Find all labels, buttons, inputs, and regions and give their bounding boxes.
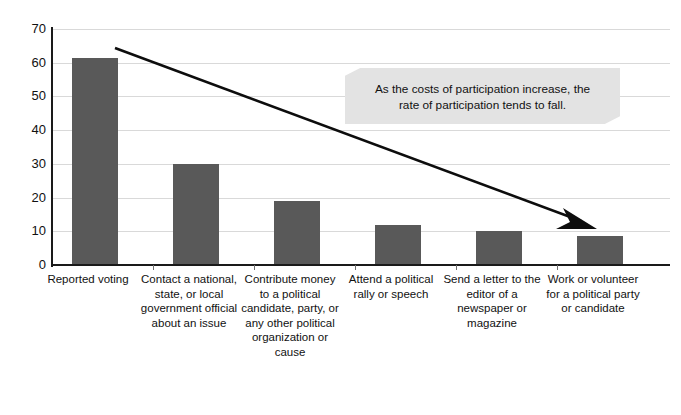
gridline-60 — [52, 63, 670, 64]
annotation-line-2: rate of participation tends to fall. — [399, 98, 566, 112]
bar-work-volunteer — [577, 236, 623, 265]
y-tick-0: 0 — [6, 258, 46, 271]
annotation-callout-box: As the costs of participation increase, … — [345, 68, 620, 124]
plot-area — [52, 29, 670, 265]
y-tick-40: 40 — [6, 123, 46, 136]
y-tick-20: 20 — [6, 191, 46, 204]
y-tick-30: 30 — [6, 157, 46, 170]
bar-contribute-money — [274, 201, 320, 265]
x-axis-line — [51, 264, 670, 266]
y-tick-70: 70 — [6, 22, 46, 35]
gridline-40 — [52, 130, 670, 131]
bar-send-letter — [476, 231, 522, 265]
gridline-20 — [52, 198, 670, 199]
x-label-contact-official: Contact a national, state, or local gove… — [140, 272, 238, 330]
gridline-10 — [52, 231, 670, 232]
y-tick-60: 60 — [6, 56, 46, 69]
x-tick-2 — [254, 265, 255, 270]
x-tick-5 — [557, 265, 558, 270]
bar-attend-rally — [375, 225, 421, 265]
x-tick-3 — [355, 265, 356, 270]
y-tick-10: 10 — [6, 224, 46, 237]
y-axis-tick-labels: 70 60 50 40 30 20 10 0 — [0, 0, 46, 415]
x-tick-1 — [153, 265, 154, 270]
x-label-send-letter: Send a letter to the editor of a newspap… — [443, 272, 541, 330]
bar-contact-official — [173, 164, 219, 265]
x-label-attend-rally: Attend a political rally or speech — [342, 272, 440, 301]
x-label-contribute-money: Contribute money to a political candidat… — [241, 272, 339, 360]
bar-chart: 70 60 50 40 30 20 10 0 Reported voting C… — [0, 0, 681, 415]
x-tick-4 — [456, 265, 457, 270]
annotation-line-1: As the costs of participation increase, … — [375, 82, 590, 96]
x-label-reported-voting: Reported voting — [39, 272, 137, 287]
y-axis-line — [51, 27, 53, 267]
gridline-70 — [52, 29, 670, 30]
annotation-callout-text: As the costs of participation increase, … — [355, 81, 610, 113]
gridline-30 — [52, 164, 670, 165]
bar-reported-voting — [72, 58, 118, 265]
x-label-work-volunteer: Work or volunteer for a political party … — [544, 272, 642, 316]
y-tick-50: 50 — [6, 89, 46, 102]
